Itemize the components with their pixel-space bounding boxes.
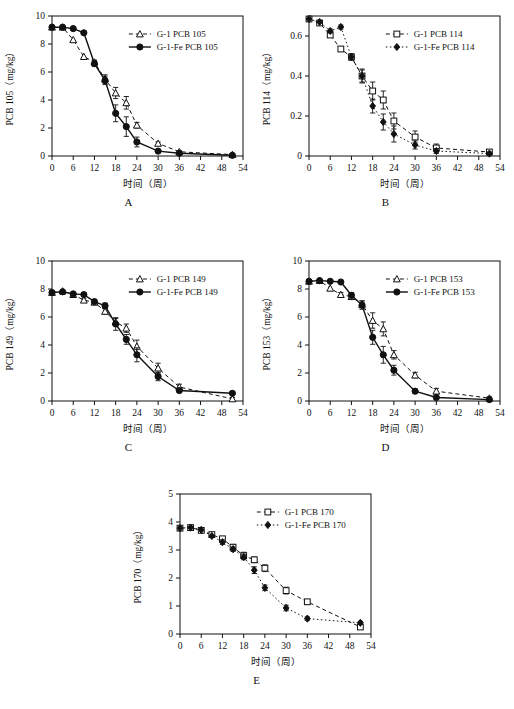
svg-text:5: 5 — [168, 489, 173, 499]
panel-c: 0612182430364248540246810时间（周）PCB 149（mg… — [0, 245, 257, 475]
svg-text:48: 48 — [217, 408, 227, 418]
svg-text:42: 42 — [453, 163, 463, 173]
svg-text:18: 18 — [239, 641, 249, 651]
figure-pcb-degradation: 0612182430364248540246810时间（周）PCB 105（mg… — [0, 0, 514, 709]
svg-text:PCB 170（mg/kg）: PCB 170（mg/kg） — [132, 525, 143, 604]
svg-text:36: 36 — [175, 408, 185, 418]
svg-text:0: 0 — [307, 408, 312, 418]
svg-text:8: 8 — [297, 284, 302, 294]
panel-letter-e: E — [128, 674, 385, 686]
svg-text:0: 0 — [297, 396, 302, 406]
svg-text:PCB 149（mg/kg）: PCB 149（mg/kg） — [4, 292, 15, 371]
svg-text:12: 12 — [347, 408, 357, 418]
svg-text:54: 54 — [366, 641, 376, 651]
svg-text:0: 0 — [40, 396, 45, 406]
svg-text:1: 1 — [168, 601, 173, 611]
svg-text:18: 18 — [368, 163, 378, 173]
svg-text:6: 6 — [40, 67, 45, 77]
svg-text:G-1 PCB 105: G-1 PCB 105 — [157, 29, 207, 39]
svg-text:24: 24 — [132, 163, 142, 173]
svg-text:时间（周）: 时间（周） — [123, 178, 173, 189]
svg-text:6: 6 — [71, 163, 76, 173]
svg-text:24: 24 — [260, 641, 270, 651]
chart-panel-e: 061218243036424854012345时间（周）PCB 170（mg/… — [128, 478, 385, 678]
svg-text:6: 6 — [328, 408, 333, 418]
svg-text:30: 30 — [410, 408, 420, 418]
svg-text:18: 18 — [368, 408, 378, 418]
svg-text:6: 6 — [40, 312, 45, 322]
svg-text:24: 24 — [389, 163, 399, 173]
panel-letter-a: A — [0, 196, 257, 208]
svg-text:36: 36 — [303, 641, 313, 651]
svg-text:PCB 114（mg/kg）: PCB 114（mg/kg） — [261, 47, 272, 126]
svg-text:2: 2 — [168, 573, 173, 583]
panel-e: 061218243036424854012345时间（周）PCB 170（mg/… — [128, 478, 385, 709]
svg-text:G-1-Fe PCB 170: G-1-Fe PCB 170 — [285, 520, 347, 530]
svg-text:PCB 153（mg/kg）: PCB 153（mg/kg） — [261, 292, 272, 371]
chart-panel-c: 0612182430364248540246810时间（周）PCB 149（mg… — [0, 245, 257, 445]
svg-text:G-1 PCB 153: G-1 PCB 153 — [414, 274, 464, 284]
svg-text:2: 2 — [297, 368, 302, 378]
svg-text:时间（周）: 时间（周） — [123, 423, 173, 434]
svg-text:时间（周）: 时间（周） — [380, 423, 430, 434]
svg-text:10: 10 — [36, 256, 46, 266]
svg-text:4: 4 — [40, 95, 45, 105]
svg-text:PCB 105（mg/kg）: PCB 105（mg/kg） — [4, 47, 15, 126]
svg-text:6: 6 — [71, 408, 76, 418]
svg-text:0: 0 — [168, 629, 173, 639]
svg-text:30: 30 — [153, 408, 163, 418]
svg-text:42: 42 — [196, 163, 206, 173]
svg-text:0.4: 0.4 — [290, 71, 302, 81]
svg-text:6: 6 — [297, 312, 302, 322]
svg-text:36: 36 — [432, 163, 442, 173]
svg-text:8: 8 — [40, 39, 45, 49]
svg-text:8: 8 — [40, 284, 45, 294]
svg-text:G-1-Fe PCB 105: G-1-Fe PCB 105 — [157, 42, 219, 52]
svg-text:6: 6 — [199, 641, 204, 651]
svg-text:54: 54 — [495, 163, 505, 173]
svg-text:2: 2 — [40, 123, 45, 133]
svg-text:0.2: 0.2 — [290, 111, 302, 121]
svg-text:4: 4 — [40, 340, 45, 350]
svg-text:10: 10 — [36, 11, 46, 21]
svg-text:3: 3 — [168, 545, 173, 555]
chart-panel-a: 0612182430364248540246810时间（周）PCB 105（mg… — [0, 0, 257, 200]
svg-text:4: 4 — [297, 340, 302, 350]
svg-text:48: 48 — [345, 641, 355, 651]
svg-text:54: 54 — [238, 408, 248, 418]
svg-text:36: 36 — [175, 163, 185, 173]
svg-text:48: 48 — [217, 163, 227, 173]
svg-text:G-1-Fe PCB 114: G-1-Fe PCB 114 — [414, 42, 475, 52]
svg-text:42: 42 — [324, 641, 334, 651]
svg-text:54: 54 — [495, 408, 505, 418]
svg-text:12: 12 — [347, 163, 357, 173]
svg-text:2: 2 — [40, 368, 45, 378]
svg-text:24: 24 — [132, 408, 142, 418]
svg-text:6: 6 — [328, 163, 333, 173]
svg-text:48: 48 — [474, 408, 484, 418]
svg-text:12: 12 — [90, 163, 100, 173]
svg-text:时间（周）: 时间（周） — [380, 178, 430, 189]
svg-text:10: 10 — [293, 256, 303, 266]
svg-text:4: 4 — [168, 517, 173, 527]
svg-text:12: 12 — [90, 408, 100, 418]
svg-text:30: 30 — [153, 163, 163, 173]
svg-text:0: 0 — [307, 163, 312, 173]
panel-letter-b: B — [257, 196, 514, 208]
svg-text:G-1-Fe PCB 149: G-1-Fe PCB 149 — [157, 287, 219, 297]
svg-text:0: 0 — [40, 151, 45, 161]
svg-text:0: 0 — [50, 408, 55, 418]
svg-text:G-1 PCB 114: G-1 PCB 114 — [414, 29, 463, 39]
svg-text:G-1 PCB 170: G-1 PCB 170 — [285, 507, 335, 517]
svg-text:12: 12 — [218, 641, 228, 651]
svg-text:0: 0 — [50, 163, 55, 173]
svg-text:18: 18 — [111, 408, 121, 418]
chart-panel-b: 06121824303642485400.20.40.6时间（周）PCB 114… — [257, 0, 514, 200]
panel-a: 0612182430364248540246810时间（周）PCB 105（mg… — [0, 0, 257, 230]
svg-text:36: 36 — [432, 408, 442, 418]
panel-d: 0612182430364248540246810时间（周）PCB 153（mg… — [257, 245, 514, 475]
svg-text:30: 30 — [281, 641, 291, 651]
panel-letter-c: C — [0, 441, 257, 453]
svg-text:0: 0 — [178, 641, 183, 651]
svg-text:0.6: 0.6 — [290, 31, 302, 41]
